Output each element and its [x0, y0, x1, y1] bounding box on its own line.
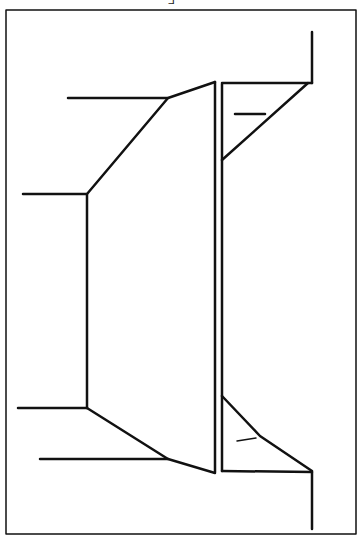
left-lower-diagonal	[87, 408, 215, 473]
right-top-diagonal	[222, 83, 308, 160]
right-bottom-diagonal	[222, 396, 312, 471]
technical-drawing	[0, 0, 361, 551]
left-upper-diagonal	[87, 98, 168, 408]
left-body-outline	[68, 82, 215, 98]
right-bottom-horizontal	[222, 471, 312, 472]
right-bottom-tick	[237, 438, 256, 441]
